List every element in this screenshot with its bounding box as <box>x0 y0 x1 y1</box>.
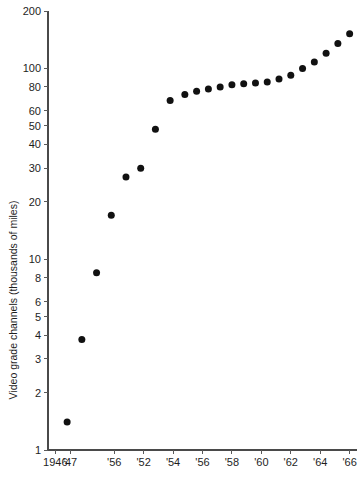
y-axis-title: Video grade channels (thousands of miles… <box>7 201 19 400</box>
data-point <box>181 91 188 98</box>
y-axis-tick-label: 60 <box>29 105 41 117</box>
y-axis-tick-label: 5 <box>35 311 41 323</box>
x-axis-tick-label: '54 <box>166 456 180 468</box>
y-axis-tick-label: 20 <box>29 196 41 208</box>
x-axis-tick-label: '64 <box>313 456 327 468</box>
y-axis: 200100806050403020108654321 <box>23 5 48 456</box>
y-axis-tick-label: 6 <box>35 296 41 308</box>
x-axis-tick-label: '47 <box>63 456 77 468</box>
chart-container: 200100806050403020108654321 1946'47'56'5… <box>0 0 363 479</box>
data-point <box>93 269 100 276</box>
y-axis-tick-label: 1 <box>35 444 41 456</box>
data-point <box>240 80 247 87</box>
y-axis-tick-label: 10 <box>29 253 41 265</box>
y-axis-tick-label: 40 <box>29 138 41 150</box>
data-point <box>167 97 174 104</box>
data-point <box>252 79 259 86</box>
data-point <box>334 40 341 47</box>
data-point <box>264 78 271 85</box>
data-point <box>323 50 330 57</box>
data-point-series <box>64 30 354 425</box>
y-axis-tick-label: 100 <box>23 62 41 74</box>
data-point <box>228 81 235 88</box>
data-point <box>193 88 200 95</box>
y-axis-tick-label: 200 <box>23 5 41 17</box>
data-point <box>64 419 71 426</box>
y-axis-tick-label: 80 <box>29 81 41 93</box>
y-axis-tick-label: 3 <box>35 353 41 365</box>
x-axis-tick-label: '52 <box>136 456 150 468</box>
scatter-plot: 200100806050403020108654321 1946'47'56'5… <box>0 0 363 479</box>
y-axis-tick-label: 4 <box>35 329 41 341</box>
data-point <box>299 65 306 72</box>
y-axis-tick-label: 50 <box>29 120 41 132</box>
data-point <box>287 72 294 79</box>
x-axis-tick-label: '66 <box>342 456 356 468</box>
data-point <box>108 212 115 219</box>
data-point <box>205 86 212 93</box>
data-point <box>78 336 85 343</box>
x-axis-tick-label: '56 <box>195 456 209 468</box>
data-point <box>137 165 144 172</box>
data-point <box>152 126 159 133</box>
x-axis: 1946'47'56'52'54'56'58'60'62'64'66 <box>43 450 357 468</box>
x-axis-tick-label: '58 <box>225 456 239 468</box>
data-point <box>346 30 353 37</box>
y-axis-tick-label: 2 <box>35 387 41 399</box>
x-axis-tick-label: '60 <box>254 456 268 468</box>
y-axis-tick-label: 8 <box>35 272 41 284</box>
x-axis-tick-label: '56 <box>107 456 121 468</box>
data-point <box>311 59 318 66</box>
x-axis-tick-label: '62 <box>284 456 298 468</box>
data-point <box>122 173 129 180</box>
data-point <box>276 76 283 83</box>
data-point <box>217 83 224 90</box>
y-axis-tick-label: 30 <box>29 162 41 174</box>
